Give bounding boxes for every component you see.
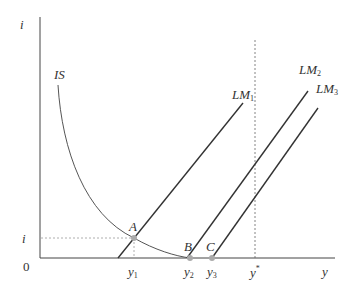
islm-diagram [0,0,353,290]
lm3-sub: 3 [334,88,338,97]
y-axis-label: i [20,18,24,31]
is-label: IS [54,68,65,81]
point-b-marker [187,255,193,261]
lm1-sub: 1 [250,94,254,103]
lm3-line [212,108,318,258]
y2-tick-label: y2 [184,265,194,280]
y3-sub: 3 [213,271,217,280]
point-a-marker [131,235,137,241]
point-a-label: A [129,220,137,233]
lm2-label: LM2 [299,63,321,78]
y2-sub: 2 [190,271,194,280]
ystar-sup: * [256,264,260,273]
point-b-label: B [184,240,192,253]
y1-tick-label: y1 [128,265,138,280]
lm3-label: LM3 [316,82,338,97]
lm1-text: LM [232,87,250,102]
y3-tick-label: y3 [207,265,217,280]
lm3-text: LM [316,81,334,96]
lm1-line [118,103,243,258]
i-tick-label: i [22,232,26,245]
lm2-line [187,91,308,258]
lm2-text: LM [299,62,317,77]
point-c-label: C [206,240,215,253]
x-axis-label: y [322,265,328,278]
is-curve [58,85,190,258]
ystar-tick-label: y* [250,265,260,279]
lm1-label: LM1 [232,88,254,103]
point-c-marker [209,255,215,261]
y1-sub: 1 [134,271,138,280]
lm2-sub: 2 [317,69,321,78]
origin-label: 0 [23,260,30,273]
